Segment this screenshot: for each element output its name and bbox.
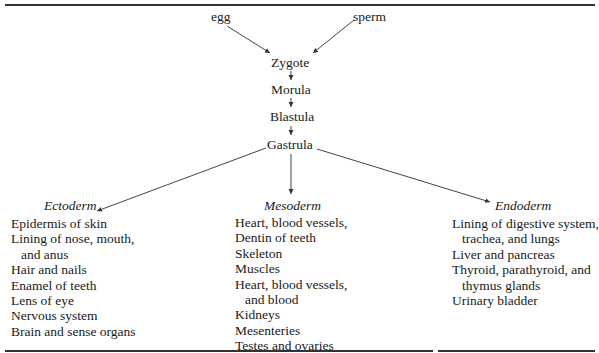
egg-label: egg (211, 9, 231, 24)
list-item: Nervous system (11, 308, 136, 323)
gastrula-label: Gastrula (267, 137, 313, 152)
bottom-rule-left (5, 350, 433, 352)
gastrula-to-ectoderm-arrow (97, 148, 266, 211)
ectoderm-derivatives-list: Epidermis of skin Lining of nose, mouth,… (11, 216, 136, 339)
ectoderm-heading: Ectoderm (44, 198, 96, 213)
list-item: Brain and sense organs (11, 324, 136, 339)
list-item: Heart, blood vessels,and blood (235, 277, 347, 308)
sperm-to-zygote-arrow (313, 20, 354, 53)
list-item: Heart, blood vessels, (235, 215, 347, 230)
list-item: Skeleton (235, 246, 347, 261)
morula-label: Morula (271, 82, 311, 97)
list-item: Lining of digestive system,trachea, and … (452, 216, 599, 247)
blastula-label: Blastula (270, 109, 314, 124)
list-item: Lens of eye (11, 293, 136, 308)
mesoderm-heading: Mesoderm (264, 198, 321, 213)
list-item: Dentin of teeth (235, 230, 347, 245)
list-item: Hair and nails (11, 262, 136, 277)
endoderm-derivatives-list: Lining of digestive system,trachea, and … (452, 216, 599, 308)
sperm-label: sperm (353, 9, 386, 24)
egg-to-zygote-arrow (227, 26, 270, 53)
list-item: Muscles (235, 261, 347, 276)
list-item: Lining of nose, mouth,and anus (11, 231, 136, 262)
list-item: Mesenteries (235, 323, 347, 338)
list-item: Thyroid, parathyroid, andthymus glands (452, 262, 599, 293)
list-item: Liver and pancreas (452, 247, 599, 262)
endoderm-heading: Endoderm (495, 198, 551, 213)
gastrula-to-endoderm-arrow (317, 149, 490, 202)
list-item: Urinary bladder (452, 293, 599, 308)
list-item: Epidermis of skin (11, 216, 136, 231)
mesoderm-derivatives-list: Heart, blood vessels, Dentin of teeth Sk… (235, 215, 347, 353)
bottom-rule-right (438, 350, 595, 352)
list-item: Kidneys (235, 307, 347, 322)
zygote-label: Zygote (271, 55, 309, 70)
list-item: Enamel of teeth (11, 278, 136, 293)
